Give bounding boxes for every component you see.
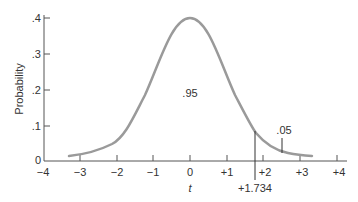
x-tick-label: −4: [37, 166, 50, 178]
critical-value-label: +1.734: [238, 182, 272, 194]
x-tick-labels: −4 −3 −2 −1 0 +1 +2 +3 +4: [37, 166, 346, 178]
tail-area-label: .05: [276, 124, 291, 136]
x-tick-label: +4: [333, 166, 346, 178]
x-tick-label: +2: [259, 166, 272, 178]
y-tick-label: .4: [32, 12, 41, 24]
y-tick-label: .1: [32, 120, 41, 132]
x-tick-label: +1: [221, 166, 234, 178]
y-tick-label: 0: [35, 154, 41, 166]
x-axis-label: t: [188, 182, 192, 194]
y-tick-label: .3: [32, 48, 41, 60]
x-tick-label: −1: [147, 166, 160, 178]
y-tick-label: .2: [32, 84, 41, 96]
x-tick-label: −3: [74, 166, 87, 178]
center-area-label: .95: [182, 87, 197, 99]
x-tick-label: +3: [296, 166, 309, 178]
y-ticks: [44, 18, 50, 126]
y-tick-labels: 0 .1 .2 .3 .4: [32, 12, 41, 166]
y-axis-label: Probability: [13, 63, 25, 115]
x-tick-label: −2: [111, 166, 124, 178]
t-distribution-chart: 0 .1 .2 .3 .4 Probability −4 −3 −2 −1 0 …: [0, 0, 358, 202]
x-tick-label: 0: [187, 166, 193, 178]
